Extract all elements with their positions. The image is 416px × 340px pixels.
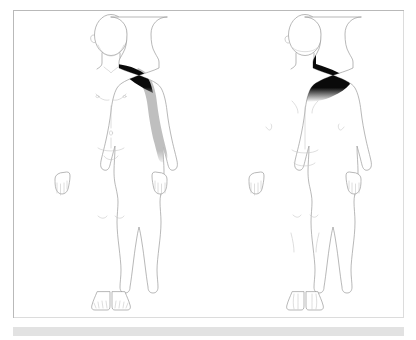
- left-calf-line: [291, 233, 294, 252]
- left-foot-posterior: [287, 292, 304, 310]
- left-hand: [55, 172, 70, 195]
- torso-arms-legs-outline-posterior: [295, 17, 372, 293]
- diagram-panel: [13, 10, 404, 318]
- left-elbow-mark: [266, 124, 272, 130]
- left-popliteal-line: [293, 215, 301, 217]
- right-foot: [112, 292, 130, 310]
- left-scapula-line: [292, 101, 298, 113]
- region-left-shoulder-mark[interactable]: [69, 64, 105, 93]
- right-foot-posterior: [306, 292, 323, 310]
- figure-posterior[interactable]: [208, 11, 403, 317]
- footer-bar: [13, 327, 404, 336]
- clavicle-lines: [104, 67, 118, 73]
- left-knee-line: [98, 216, 107, 218]
- left-foot: [92, 292, 110, 310]
- body-chart-page: [0, 0, 416, 340]
- anterior-body-svg: [14, 11, 209, 317]
- anterior-body-outline: [91, 15, 178, 294]
- posterior-body-outline: [285, 15, 371, 294]
- left-pectoral-line: [96, 94, 109, 100]
- posterior-body-svg: [208, 11, 403, 317]
- figure-anterior[interactable]: [14, 11, 209, 317]
- region-left-arm-shading[interactable]: [55, 68, 89, 162]
- left-hand-posterior: [249, 172, 264, 195]
